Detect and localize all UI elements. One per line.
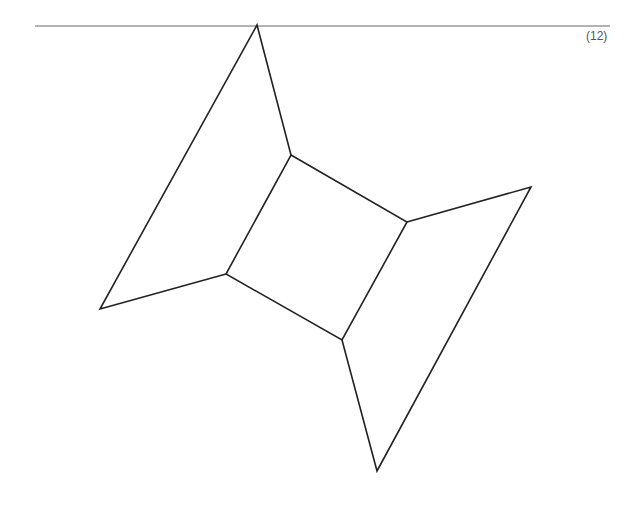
flap-top-left (100, 25, 291, 309)
flap-bottom-right (342, 187, 531, 471)
central-square (226, 155, 407, 340)
diagram (0, 0, 629, 506)
